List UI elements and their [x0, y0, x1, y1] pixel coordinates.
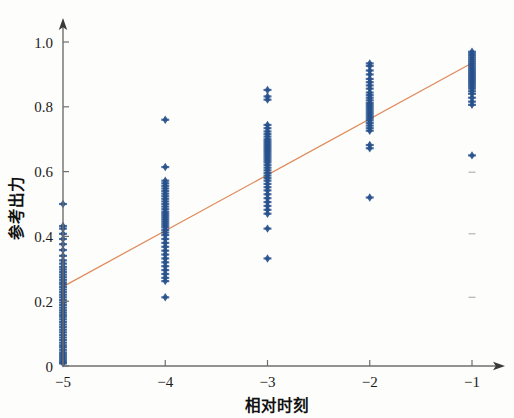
- y-axis-title: 参考出力: [7, 176, 25, 240]
- y-tick-label: 0: [46, 359, 54, 375]
- x-tick-label: −1: [464, 374, 480, 390]
- data-point: [161, 163, 169, 171]
- data-point: [366, 193, 374, 201]
- scatter-plot-figure: 00.20.40.60.81.0−5−4−3−2−1 相对时刻 参考出力: [0, 0, 514, 418]
- data-point: [468, 151, 476, 159]
- y-tick-label: 0.6: [34, 164, 53, 180]
- y-tick-label: 0.8: [34, 99, 53, 115]
- tick-group: 00.20.40.60.81.0−5−4−3−2−1: [34, 35, 480, 391]
- data-point: [264, 86, 272, 94]
- x-tick-label: −3: [260, 374, 276, 390]
- x-tick-label: −4: [157, 374, 173, 390]
- x-tick-label: −5: [55, 374, 71, 390]
- scan-artifact-group: [469, 172, 476, 297]
- x-tick-label: −2: [362, 374, 378, 390]
- data-point: [264, 224, 272, 232]
- y-tick-label: 1.0: [34, 35, 53, 51]
- data-point: [264, 254, 272, 262]
- x-axis-title: 相对时刻: [245, 396, 309, 414]
- data-point: [161, 116, 169, 124]
- data-point: [161, 293, 169, 301]
- y-tick-label: 0.2: [34, 294, 53, 310]
- plot-canvas: 00.20.40.60.81.0−5−4−3−2−1 相对时刻 参考出力: [0, 0, 514, 418]
- y-tick-label: 0.4: [34, 229, 53, 245]
- axis-group: [59, 18, 505, 370]
